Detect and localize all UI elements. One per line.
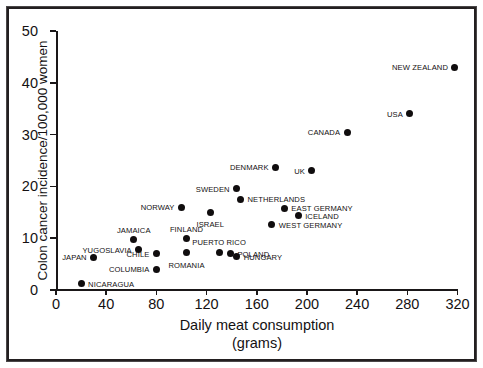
data-point: [344, 129, 351, 136]
data-point-label: PUERTO RICO: [192, 239, 246, 247]
x-tick-mark: [457, 289, 459, 295]
x-tick-mark: [407, 289, 409, 295]
x-tick-label: 160: [235, 297, 279, 312]
x-tick-mark: [256, 289, 258, 295]
data-point: [272, 164, 279, 171]
data-point-label: JAPAN: [62, 254, 86, 262]
data-point-label: HUNGARY: [244, 253, 283, 261]
data-point-label: JAMAICA: [117, 227, 151, 235]
x-tick-label: 120: [185, 297, 229, 312]
x-axis-title-line2: (grams): [56, 334, 458, 352]
data-point: [233, 185, 240, 192]
x-axis-title: Daily meat consumption (grams): [56, 316, 458, 352]
y-tick-label: 0: [8, 283, 38, 298]
x-tick-label: 280: [385, 297, 429, 312]
data-point-label: SWEDEN: [196, 185, 230, 193]
x-tick-label: 200: [285, 297, 329, 312]
data-point-label: WEST GERMANY: [279, 221, 343, 229]
data-point-label: CANADA: [308, 129, 340, 137]
data-point: [153, 266, 160, 273]
data-point: [207, 209, 214, 216]
x-tick-mark: [306, 289, 308, 295]
data-point-label: NORWAY: [141, 204, 175, 212]
data-point: [295, 212, 302, 219]
y-axis-title: Colon cancer incidence/100,000 women: [35, 36, 50, 286]
y-tick-mark: [50, 186, 56, 188]
data-point: [90, 254, 97, 261]
x-tick-mark: [156, 289, 158, 295]
data-point: [451, 64, 458, 71]
data-point: [130, 236, 137, 243]
data-point-label: ICELAND: [305, 212, 339, 220]
data-point: [237, 196, 244, 203]
data-point-label: NETHERLANDS: [247, 196, 305, 204]
scatter-plot: 01020304050 04080120160200240280320 NICA…: [0, 0, 483, 368]
data-point: [233, 253, 240, 260]
data-point-label: ISRAEL: [197, 221, 225, 229]
y-tick-label: 50: [8, 24, 38, 39]
data-point-label: ROMANIA: [168, 262, 204, 270]
chart-figure: 01020304050 04080120160200240280320 NICA…: [0, 0, 483, 368]
x-tick-mark: [55, 289, 57, 295]
data-point: [183, 235, 190, 242]
data-point-label: UK: [294, 167, 305, 175]
data-point: [78, 280, 85, 287]
data-point-label: CHILE: [127, 250, 150, 258]
y-axis-line: [56, 31, 58, 290]
y-tick-mark: [50, 134, 56, 136]
x-tick-label: 40: [84, 297, 128, 312]
y-tick-label: 20: [8, 179, 38, 194]
x-tick-label: 80: [134, 297, 178, 312]
data-point: [153, 250, 160, 257]
x-tick-mark: [356, 289, 358, 295]
y-tick-mark: [50, 82, 56, 84]
y-tick-label: 30: [8, 128, 38, 143]
data-point-label: USA: [387, 110, 403, 118]
y-tick-label: 10: [8, 231, 38, 246]
data-point: [308, 167, 315, 174]
x-tick-mark: [105, 289, 107, 295]
y-tick-label: 40: [8, 76, 38, 91]
x-tick-label: 240: [335, 297, 379, 312]
data-point: [216, 249, 223, 256]
data-point-label: COLUMBIA: [109, 266, 149, 274]
data-point-label: YUGOSLAVIA: [82, 246, 131, 254]
x-tick-label: 320: [436, 297, 480, 312]
data-point: [406, 110, 413, 117]
data-point-label: DENMARK: [230, 164, 269, 172]
data-point: [281, 205, 288, 212]
data-point: [178, 204, 185, 211]
x-tick-mark: [206, 289, 208, 295]
data-point-label: NEW ZEALAND: [392, 64, 448, 72]
y-tick-mark: [50, 30, 56, 32]
y-tick-mark: [50, 237, 56, 239]
x-axis-title-line1: Daily meat consumption: [56, 316, 458, 334]
x-tick-label: 0: [34, 297, 78, 312]
data-point: [183, 249, 190, 256]
data-point-label: NICARAGUA: [88, 280, 134, 288]
data-point: [268, 221, 275, 228]
